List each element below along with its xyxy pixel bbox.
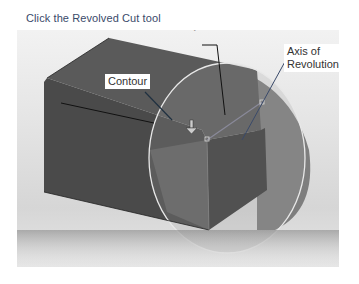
axis-label-line1: Axis of (287, 45, 339, 58)
axis-label-line2: Revolution (287, 58, 339, 71)
axis-of-revolution-label: Axis of Revolution (284, 44, 342, 72)
revolve-preview-circle (149, 63, 305, 253)
instruction-caption: Click the Revolved Cut tool (26, 12, 161, 24)
contour-label: Contour (105, 74, 150, 89)
